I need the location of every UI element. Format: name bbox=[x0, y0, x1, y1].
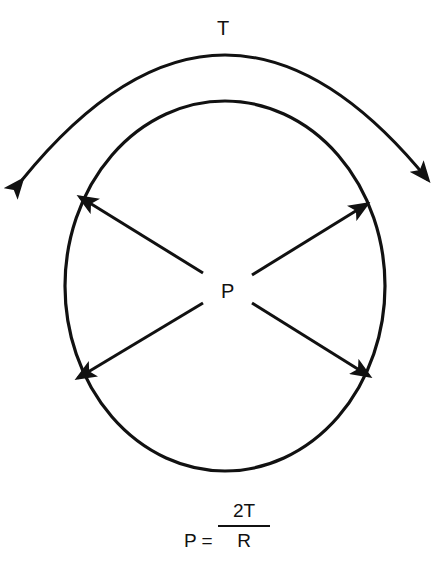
torque-arc-arrow bbox=[22, 55, 428, 180]
pressure-arrow-lower-right bbox=[252, 303, 369, 376]
pressure-torque-diagram bbox=[0, 0, 436, 584]
pressure-arrow-upper-right bbox=[252, 204, 367, 275]
formula-fraction: 2T R bbox=[214, 500, 274, 552]
formula-lhs: P = bbox=[184, 531, 213, 550]
torque-label: T bbox=[217, 18, 229, 38]
pressure-label: P bbox=[221, 281, 234, 301]
pressure-arrow-upper-left bbox=[80, 197, 203, 273]
pressure-arrow-lower-left bbox=[78, 303, 203, 378]
formula-numerator: 2T bbox=[214, 500, 274, 525]
formula-denominator: R bbox=[214, 527, 274, 552]
